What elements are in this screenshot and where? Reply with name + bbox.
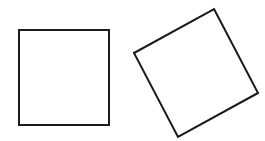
- rotated-square: [134, 9, 258, 137]
- diagram-canvas: [0, 0, 265, 141]
- upright-square: [19, 30, 109, 125]
